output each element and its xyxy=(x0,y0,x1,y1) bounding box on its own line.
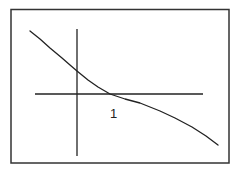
function-curve xyxy=(30,31,218,145)
frame-border xyxy=(11,10,229,164)
graph: 1 xyxy=(0,0,235,172)
x-tick-label: 1 xyxy=(110,106,117,121)
